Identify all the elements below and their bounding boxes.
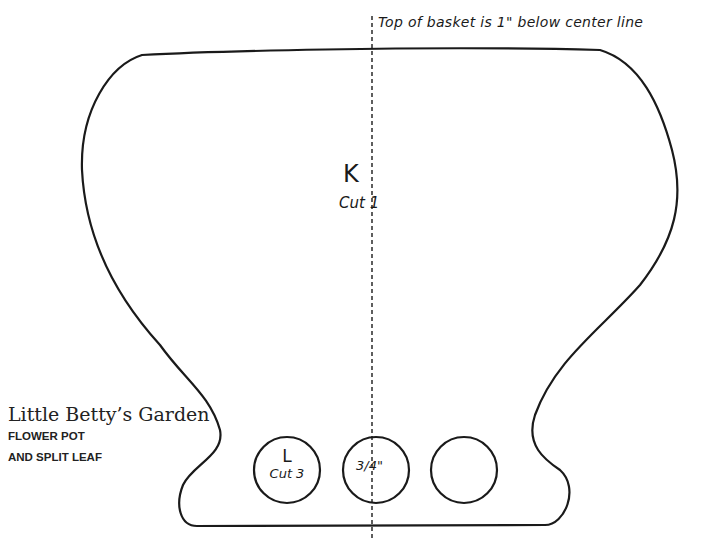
pot-cut-count: Cut 1 <box>339 194 403 212</box>
brand-subtitle-2: AND SPLIT LEAF <box>8 447 210 468</box>
circle-letter: L <box>262 446 312 466</box>
brand-subtitle-1: FLOWER POT <box>8 426 210 447</box>
circle-cut-count: Cut 3 <box>262 466 312 482</box>
brand-title: Little Betty’s Garden <box>8 402 210 426</box>
pot-label: K Cut 1 <box>343 160 403 212</box>
basket-note: Top of basket is 1" below center line <box>378 14 643 30</box>
circle-label: L Cut 3 <box>262 446 312 482</box>
circle-piece-3 <box>431 437 497 503</box>
circle-size: 3/4" <box>356 458 383 473</box>
branding-block: Little Betty’s Garden FLOWER POT AND SPL… <box>8 402 210 468</box>
pot-letter: K <box>343 160 403 188</box>
